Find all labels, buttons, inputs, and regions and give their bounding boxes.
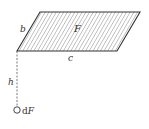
label-point-var: F (27, 106, 35, 116)
parallelogram-diagram: F b c h dF (0, 0, 149, 129)
label-height-h: h (8, 77, 14, 87)
label-point-dF: dF (22, 106, 35, 116)
point-circle (14, 107, 20, 113)
label-side-c: c (68, 53, 73, 63)
label-area-F: F (73, 23, 82, 34)
label-side-b: b (20, 24, 26, 34)
